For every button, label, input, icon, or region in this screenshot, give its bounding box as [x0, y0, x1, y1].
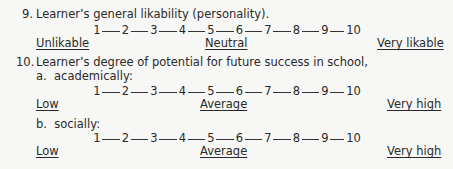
scale-connector-line: [245, 139, 263, 140]
scale-connector-line: [102, 92, 120, 93]
scale-connector-line: [216, 139, 234, 140]
scale-point-3[interactable]: 3: [150, 25, 157, 37]
scale-point-8[interactable]: 8: [293, 133, 300, 145]
scale-connector-line: [216, 31, 234, 32]
scale-connector-line: [273, 31, 291, 32]
scale-connector-line: [102, 139, 120, 140]
scale-point-2[interactable]: 2: [122, 86, 129, 98]
scale-connector-line: [245, 31, 263, 32]
scale-connector-line: [188, 31, 206, 32]
scale-connector-line: [273, 92, 291, 93]
scale-point-8[interactable]: 8: [293, 86, 300, 98]
scale-connector-line: [330, 92, 344, 93]
item-10b-anchor-mid: Average: [200, 146, 247, 158]
scale-connector-line: [330, 139, 344, 140]
scale-connector-line: [188, 139, 206, 140]
scale-point-6[interactable]: 6: [236, 25, 243, 37]
item-9-question: Learner’s general likability (personalit…: [36, 9, 269, 21]
item-10a-anchor-mid: Average: [200, 99, 247, 111]
scale-point-8[interactable]: 8: [293, 25, 300, 37]
item-10b-anchor-high: Very high: [387, 146, 441, 158]
scale-point-3[interactable]: 3: [150, 86, 157, 98]
scale-connector-line: [302, 31, 320, 32]
scale-connector-line: [302, 139, 320, 140]
scale-point-1[interactable]: 1: [93, 25, 100, 37]
scale-connector-line: [159, 139, 177, 140]
scale-connector-line: [302, 92, 320, 93]
scale-point-4[interactable]: 4: [179, 86, 186, 98]
scale-point-7[interactable]: 7: [264, 25, 271, 37]
scale-point-1[interactable]: 1: [93, 86, 100, 98]
item-9-anchor-high: Very likable: [377, 38, 444, 50]
scale-connector-line: [188, 92, 206, 93]
item-10a-sublabel: a. academically:: [36, 71, 133, 83]
item-10-number: 10.: [16, 57, 34, 69]
item-10b-sublabel: b. socially:: [36, 119, 100, 131]
scale-connector-line: [102, 31, 120, 32]
scale-point-5[interactable]: 5: [207, 25, 214, 37]
scale-point-9[interactable]: 9: [321, 25, 328, 37]
scale-point-9[interactable]: 9: [321, 86, 328, 98]
item-9-number: 9.: [22, 9, 33, 21]
scale-point-2[interactable]: 2: [122, 25, 129, 37]
scale-connector-line: [159, 92, 177, 93]
item-10a-anchor-high: Very high: [387, 99, 441, 111]
scale-point-3[interactable]: 3: [150, 133, 157, 145]
scale-point-7[interactable]: 7: [264, 86, 271, 98]
scale-point-7[interactable]: 7: [264, 133, 271, 145]
scale-connector-line: [330, 31, 344, 32]
scale-point-10[interactable]: 10: [346, 25, 361, 37]
scale-connector-line: [131, 31, 149, 32]
scale-point-9[interactable]: 9: [321, 133, 328, 145]
scale-point-6[interactable]: 6: [236, 86, 243, 98]
scale-point-6[interactable]: 6: [236, 133, 243, 145]
scale-point-1[interactable]: 1: [93, 133, 100, 145]
item-10b-anchor-low: Low: [36, 146, 59, 158]
scale-connector-line: [131, 92, 149, 93]
scale-connector-line: [159, 31, 177, 32]
scale-point-10[interactable]: 10: [346, 133, 361, 145]
scale-point-4[interactable]: 4: [179, 25, 186, 37]
scale-connector-line: [131, 139, 149, 140]
scale-connector-line: [245, 92, 263, 93]
scale-point-5[interactable]: 5: [207, 86, 214, 98]
item-9-anchor-low: Unlikable: [36, 38, 89, 50]
scale-point-5[interactable]: 5: [207, 133, 214, 145]
scale-point-4[interactable]: 4: [179, 133, 186, 145]
item-10a-anchor-low: Low: [36, 99, 59, 111]
scale-point-10[interactable]: 10: [346, 86, 361, 98]
scale-connector-line: [216, 92, 234, 93]
scale-point-2[interactable]: 2: [122, 133, 129, 145]
item-9-anchor-mid: Neutral: [205, 38, 247, 50]
item-10-question: Learner’s degree of potential for future…: [36, 57, 368, 69]
scale-connector-line: [273, 139, 291, 140]
